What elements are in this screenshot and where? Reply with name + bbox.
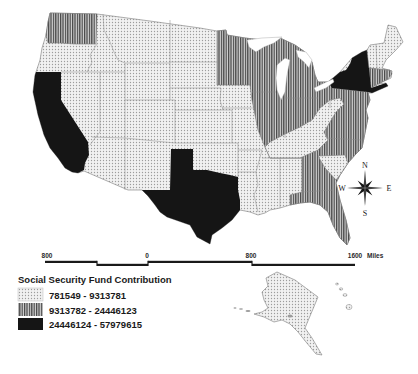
- legend-label-class-3: 24446124 - 57979615: [49, 319, 143, 330]
- compass-south-label: S: [363, 209, 367, 218]
- scale-segment-3: [148, 261, 252, 263]
- scale-label-left-800: 800: [42, 252, 53, 259]
- scale-label-1600: 1600: [348, 252, 363, 259]
- map-canvas: N S W E 800 0 800 1600 Miles Social Secu…: [0, 0, 418, 374]
- state-hawaii-inset: [336, 283, 353, 310]
- state-washington: [46, 13, 97, 44]
- legend: Social Security Fund Contribution 781549…: [18, 274, 172, 330]
- scale-bar: 800 0 800 1600 Miles: [42, 252, 384, 266]
- legend-title: Social Security Fund Contribution: [18, 274, 172, 285]
- compass-east-label: E: [387, 184, 392, 193]
- scale-label-0: 0: [145, 252, 149, 259]
- state-alaska-inset: [254, 272, 322, 355]
- scale-label-800: 800: [246, 252, 257, 259]
- legend-swatch-class-3: [18, 318, 43, 330]
- map-figure: N S W E 800 0 800 1600 Miles Social Secu…: [0, 0, 418, 374]
- legend-label-class-1: 781549 - 9313781: [49, 290, 127, 301]
- legend-label-class-2: 9313782 - 24446123: [49, 305, 137, 316]
- scale-segment-1: [45, 261, 97, 263]
- compass-rose: N S W E: [338, 161, 391, 218]
- legend-swatch-class-2: [18, 303, 43, 316]
- legend-swatch-class-1: [18, 288, 43, 301]
- scale-segment-2: [97, 264, 148, 266]
- compass-west-label: W: [338, 184, 346, 193]
- scale-segment-4: [252, 264, 355, 266]
- scale-unit-label: Miles: [367, 252, 384, 259]
- compass-north-label: N: [362, 161, 368, 170]
